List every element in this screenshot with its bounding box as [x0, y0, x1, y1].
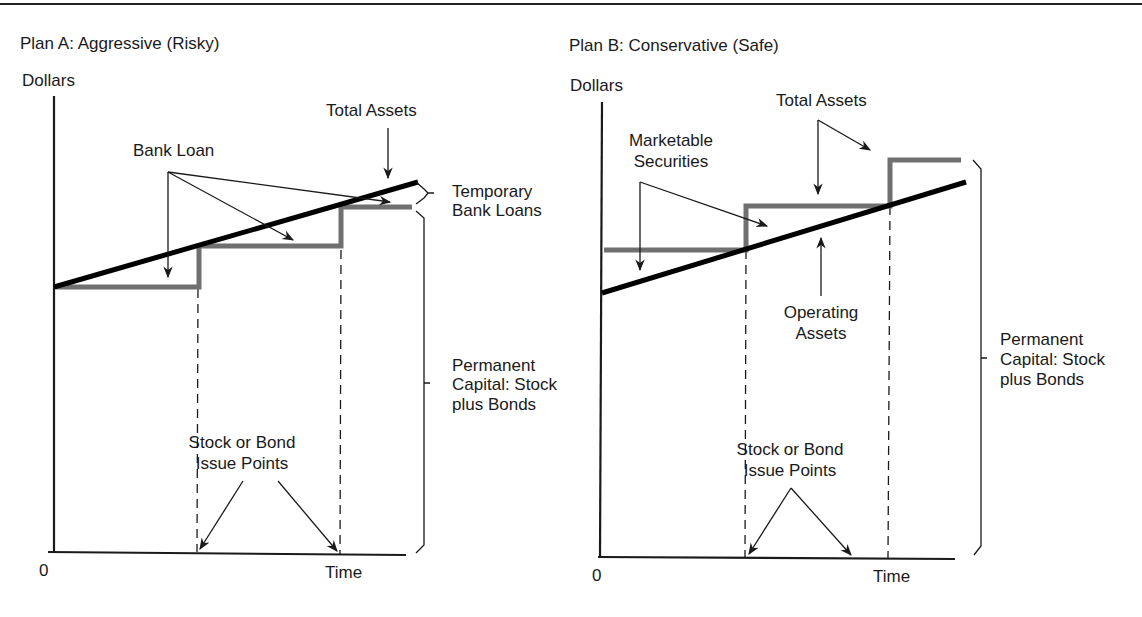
plan-b-total-assets-arrows — [818, 120, 870, 194]
plan-b-y-axis-label: Dollars — [570, 76, 623, 96]
plan-a-title: Plan A: Aggressive (Risky) — [20, 34, 219, 54]
plan-a-y-axis-label: Dollars — [22, 71, 75, 91]
plan-b-x-axis-label: Time — [873, 567, 910, 587]
plan-b-permanent-label-3: plus Bonds — [1000, 370, 1084, 390]
plan-b-permanent-capital-line — [602, 182, 966, 293]
plan-b-permanent-label-2: Capital: Stock — [1000, 350, 1105, 370]
plan-b-total-assets-label: Total Assets — [776, 91, 867, 111]
plan-b-issue-label-2: Issue Points — [730, 461, 850, 481]
plan-b-issue-label-1: Stock or Bond — [730, 440, 850, 460]
panel-plan-a — [48, 96, 434, 555]
plan-a-issue-label-1: Stock or Bond — [182, 433, 302, 453]
plan-b-x-axis — [598, 557, 955, 559]
plan-b-origin-label: 0 — [592, 566, 601, 586]
plan-a-origin-label: 0 — [39, 561, 48, 581]
plan-a-x-axis-label: Time — [325, 563, 362, 583]
plan-b-operating-label-2: Assets — [766, 324, 876, 344]
plan-a-issue-dash-1 — [197, 289, 198, 552]
plan-b-y-axis — [600, 102, 602, 557]
plan-b-operating-label-1: Operating — [766, 303, 876, 323]
plan-b-title: Plan B: Conservative (Safe) — [569, 36, 779, 56]
plan-b-permanent-label-1: Permanent — [1000, 330, 1083, 350]
plan-b-issue-dash-2 — [888, 206, 890, 558]
plan-a-total-assets-label: Total Assets — [326, 101, 417, 121]
plan-a-bank-loan-label: Bank Loan — [133, 141, 214, 161]
plan-b-issue-point-arrows — [749, 488, 851, 555]
plan-a-temporary-label-1: Temporary — [452, 182, 532, 202]
plan-a-permanent-label-3: plus Bonds — [452, 395, 536, 415]
plan-b-permanent-brace — [973, 160, 987, 555]
plan-a-permanent-brace — [416, 211, 430, 553]
plan-a-permanent-label-2: Capital: Stock — [452, 375, 557, 395]
plan-b-issue-dash-1 — [745, 250, 746, 557]
plan-b-marketable-label-1: Marketable — [616, 131, 726, 151]
plan-a-permanent-label-1: Permanent — [452, 356, 535, 376]
plan-a-issue-dash-2 — [340, 250, 341, 554]
plan-b-marketable-label-2: Securities — [616, 152, 726, 172]
plan-a-permanent-capital-steps — [56, 207, 412, 287]
plan-a-x-axis — [48, 552, 406, 555]
plan-a-issue-label-2: Issue Points — [182, 454, 302, 474]
plan-a-temporary-label-2: Bank Loans — [452, 201, 542, 221]
plan-a-temporary-brace — [416, 182, 434, 204]
plan-a-issue-point-arrows — [200, 481, 337, 551]
